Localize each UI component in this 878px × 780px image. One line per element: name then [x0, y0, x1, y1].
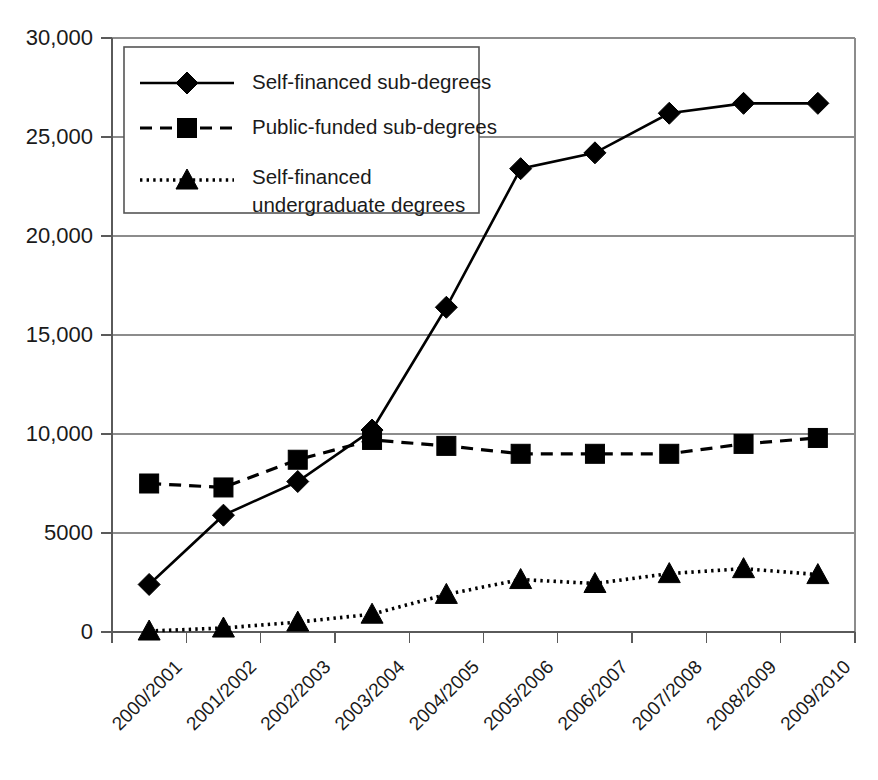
x-tick-label: 2000/2001	[108, 656, 186, 734]
x-tick-label: 2005/2006	[479, 656, 557, 734]
marker-triangle	[658, 563, 680, 583]
y-tick-label: 5000	[44, 520, 93, 545]
y-axis-ticks-group	[101, 38, 112, 632]
x-tick-label: 2006/2007	[553, 656, 631, 734]
legend-entry[interactable]: Public-funded sub-degrees	[140, 115, 497, 138]
marker-square	[178, 119, 197, 138]
legend-label: Self-financed	[252, 165, 372, 188]
x-tick-label: 2002/2003	[256, 656, 334, 734]
marker-square	[437, 436, 456, 455]
marker-diamond	[658, 102, 680, 124]
marker-diamond	[807, 92, 829, 114]
line-chart: Self-financed sub-degreesPublic-funded s…	[0, 0, 878, 780]
marker-diamond	[435, 296, 457, 318]
marker-square	[660, 444, 679, 463]
legend-label: Self-financed sub-degrees	[252, 70, 491, 93]
series-path	[149, 438, 818, 488]
marker-diamond	[287, 471, 309, 493]
series-square	[140, 428, 828, 497]
legend-label-line2: undergraduate degrees	[252, 193, 465, 216]
y-axis-labels-group: 0500010,00015,00020,00025,00030,000	[26, 25, 93, 644]
marker-triangle	[287, 611, 309, 631]
y-tick-label: 20,000	[26, 223, 93, 248]
marker-square	[288, 450, 307, 469]
x-tick-label: 2001/2002	[182, 656, 260, 734]
y-tick-label: 15,000	[26, 322, 93, 347]
y-tick-label: 0	[81, 619, 93, 644]
x-axis-labels-group: 2000/20012001/20022002/20032003/20042004…	[108, 656, 855, 735]
marker-square	[734, 434, 753, 453]
x-tick-label: 2009/2010	[776, 656, 854, 734]
x-tick-label: 2007/2008	[628, 656, 706, 734]
y-tick-label: 30,000	[26, 25, 93, 50]
marker-triangle	[435, 583, 457, 603]
marker-diamond	[510, 158, 532, 180]
series-path	[149, 569, 818, 631]
x-tick-label: 2004/2005	[405, 656, 483, 734]
marker-square	[140, 474, 159, 493]
marker-square	[808, 428, 827, 447]
marker-square	[214, 478, 233, 497]
marker-diamond	[584, 142, 606, 164]
marker-square	[585, 444, 604, 463]
legend-label: Public-funded sub-degrees	[252, 115, 497, 138]
chart-legend: Self-financed sub-degreesPublic-funded s…	[124, 47, 497, 216]
x-tick-label: 2003/2004	[331, 656, 410, 735]
chart-container: Self-financed sub-degreesPublic-funded s…	[0, 0, 878, 780]
marker-square	[363, 430, 382, 449]
y-tick-label: 25,000	[26, 124, 93, 149]
marker-diamond	[733, 92, 755, 114]
series-triangle	[138, 558, 829, 640]
marker-square	[511, 444, 530, 463]
y-tick-label: 10,000	[26, 421, 93, 446]
x-tick-label: 2008/2009	[702, 656, 780, 734]
